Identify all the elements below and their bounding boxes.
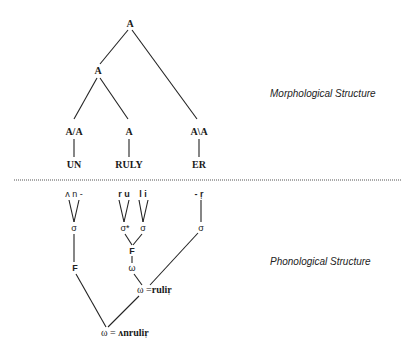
word-top-symbol: ω	[101, 327, 108, 338]
word-rulir: ω =rulir̩	[137, 285, 172, 295]
word-top-form: ʌnrulir̩	[118, 327, 149, 338]
syllable-un: σ	[71, 224, 77, 233]
stem-morpheme: RULY	[115, 160, 142, 170]
syllable-r: σ	[198, 224, 204, 233]
word-unrulier: ω = ʌnrulir̩	[101, 328, 149, 338]
syllable-ru-stressed: σ*	[120, 224, 129, 233]
suffix-morpheme: ER	[192, 160, 206, 170]
inner-node: A	[94, 66, 101, 76]
word-rulir-form: rulir̩	[152, 284, 172, 295]
word-inner: ω	[128, 264, 135, 273]
stem-category: A	[125, 127, 132, 137]
prefix-category: A/A	[65, 127, 82, 137]
segments-r: - r̩	[195, 190, 204, 199]
segments-li: l i	[139, 190, 147, 199]
diagram-canvas: A A A/A A A\A UN RULY ER Morphological S…	[0, 0, 419, 355]
phonological-structure-label: Phonological Structure	[270, 256, 371, 267]
suffix-category: A\A	[190, 127, 207, 137]
foot-left: F	[72, 264, 78, 273]
segments-ru: r u	[118, 190, 130, 199]
syllable-li: σ	[140, 224, 146, 233]
word-top-eq: =	[110, 327, 116, 338]
tree-branches	[0, 0, 419, 355]
word-rulir-symbol: ω	[137, 284, 144, 295]
morphological-structure-label: Morphological Structure	[270, 88, 376, 99]
segments-un: ʌ n -	[65, 190, 83, 199]
foot-mid: F	[129, 247, 135, 256]
root-node: A	[126, 19, 133, 29]
prefix-morpheme: UN	[67, 160, 81, 170]
